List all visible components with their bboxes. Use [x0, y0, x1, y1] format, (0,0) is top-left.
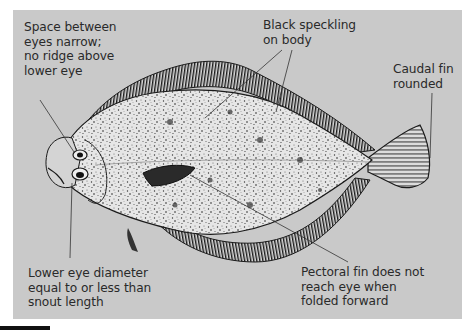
annotation-eye-spacing: Space between eyes narrow; no ridge abov… — [24, 20, 116, 78]
annotation-lower-eye-diameter: Lower eye diameter equal to or less than… — [28, 266, 151, 310]
annotation-black-speckling: Black speckling on body — [263, 18, 356, 47]
caudal-fin — [368, 125, 430, 188]
annotation-pectoral-fin: Pectoral fin does not reach eye when fol… — [301, 265, 424, 309]
annotation-caudal-fin: Caudal fin rounded — [393, 62, 454, 91]
